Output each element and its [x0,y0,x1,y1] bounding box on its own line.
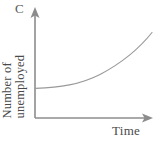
y-axis-title-line-2: unemployed [14,54,27,118]
unemployment-curve [36,33,153,89]
unemployment-time-chart: C Number of unemployed Time [0,0,159,142]
x-axis-title: Time [112,124,140,137]
y-axis-title-line-1: Number of [1,62,14,118]
y-axis-title: Number of unemployed [0,26,30,118]
y-axis-corner-label: C [15,2,24,15]
